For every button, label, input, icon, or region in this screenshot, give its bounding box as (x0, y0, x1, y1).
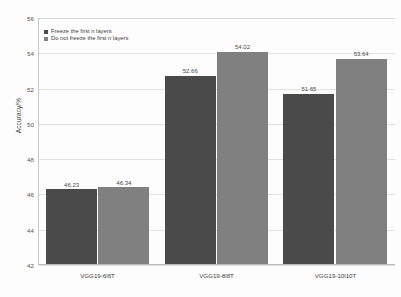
x-axis-tick-labels: VGG19-6l6TVGG19-8l8TVGG19-10l10T (38, 272, 395, 286)
bar[interactable] (217, 52, 268, 264)
bar-value-label: 46.23 (46, 182, 97, 188)
bar-group: 51.6553.64 (276, 18, 395, 264)
legend-swatch-icon (44, 37, 48, 41)
plot-area: 46.2346.3452.6654.0251.6553.64 (38, 18, 395, 265)
legend-item[interactable]: Do not freeze the first n layers (44, 36, 128, 42)
y-axis-tick-label: 44 (16, 226, 34, 233)
bar[interactable] (165, 76, 216, 264)
y-axis-tick-label: 56 (16, 15, 34, 22)
x-axis-tick-label: VGG19-10l10T (315, 272, 357, 279)
bar[interactable] (98, 187, 149, 264)
y-axis-tick-label: 50 (16, 120, 34, 127)
legend-swatch-icon (44, 30, 48, 34)
bar-value-label: 53.64 (336, 51, 387, 57)
bar-groups: 46.2346.3452.6654.0251.6553.64 (39, 18, 395, 264)
y-axis-tick-label: 46 (16, 191, 34, 198)
y-axis-tick-label: 48 (16, 156, 34, 163)
bar-group: 52.6654.02 (158, 18, 277, 264)
y-axis-tick-label: 42 (16, 262, 34, 269)
legend-label: Do not freeze the first n layers (51, 36, 128, 42)
x-axis-tick-label: VGG19-6l6T (80, 272, 115, 279)
legend-item[interactable]: Freeze the first n layers (44, 29, 128, 35)
bar-value-label: 46.34 (98, 180, 149, 186)
bar[interactable] (283, 94, 334, 264)
x-axis-tick-label: VGG19-8l8T (199, 272, 234, 279)
bar-group: 46.2346.34 (39, 18, 158, 264)
gridline (39, 265, 395, 266)
bar-chart: Accuracy/% 4244464850525456 46.2346.3452… (0, 0, 401, 297)
bar-value-label: 52.66 (165, 68, 216, 74)
chart-legend: Freeze the first n layersDo not freeze t… (44, 29, 128, 42)
y-axis-tick-labels: 4244464850525456 (14, 0, 34, 297)
bar-value-label: 51.65 (283, 86, 334, 92)
y-axis-tick-label: 52 (16, 85, 34, 92)
legend-label: Freeze the first n layers (51, 29, 112, 35)
bar[interactable] (46, 189, 97, 264)
bar-value-label: 54.02 (217, 44, 268, 50)
y-axis-tick-label: 54 (16, 50, 34, 57)
bar[interactable] (336, 59, 387, 264)
